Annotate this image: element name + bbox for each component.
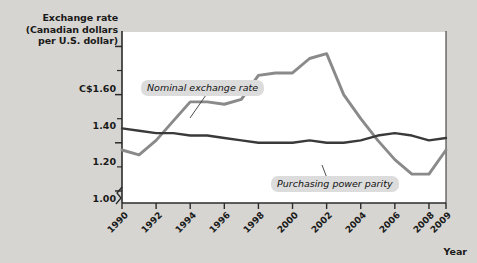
- nominal-exchange-rate-callout: Nominal exchange rate: [141, 80, 264, 96]
- series-line-nominal-exchange-rate: [122, 54, 446, 174]
- series-group: [122, 54, 446, 174]
- purchasing-power-parity-callout: Purchasing power parity: [271, 176, 399, 192]
- axis-break-squiggle: [116, 187, 122, 204]
- figure-canvas: Exchange rate (Canadian dollars per U.S.…: [0, 0, 477, 263]
- series-line-purchasing-power-parity: [122, 128, 446, 142]
- nominal-leader-line: [190, 95, 206, 118]
- chart-svg: [0, 0, 477, 263]
